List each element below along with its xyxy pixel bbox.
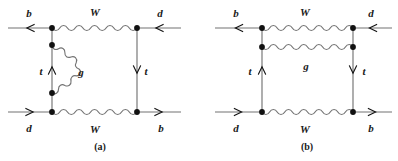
diagram-a-label-t-left: t [39, 66, 42, 77]
diagram-a-vertex-top-left [49, 25, 55, 31]
diagram-a-label-g-gluon: g [78, 67, 84, 78]
diagram-a-label-t-right: t [144, 66, 147, 77]
diagram-a-label-d-bottom-left: d [26, 123, 32, 134]
diagram-a-vertex-bottom-right [134, 109, 140, 115]
diagram-a-w-boson-top [52, 26, 137, 31]
diagram-b-caption: (b) [301, 142, 313, 152]
diagram-b-vertex-bottom-left [259, 109, 265, 115]
diagram-a-gluon-loop [52, 45, 81, 94]
diagram-b-vertex-gluon-right [350, 44, 356, 50]
diagram-a-label-d-top-right: d [157, 8, 163, 19]
diagram-a-label-b-top-left: b [26, 8, 32, 19]
diagram-b-vertex-top-right [350, 25, 356, 31]
diagram-b-label-W-bottom: W [300, 124, 310, 135]
diagram-b-label-d-bottom-left: d [233, 123, 239, 134]
diagram-b-label-b-top-left: b [233, 8, 239, 19]
diagram-b-label-W-top: W [300, 7, 310, 18]
diagram-b-w-boson-bottom [262, 110, 353, 115]
diagram-a-label-b-bottom-right: b [158, 123, 164, 134]
diagram-b-w-boson-top [262, 26, 353, 31]
diagram-a-label-W-top: W [90, 7, 100, 18]
diagram-b-label-d-top-right: d [368, 8, 374, 19]
diagram-b-label-b-bottom-right: b [368, 123, 374, 134]
diagram-a-caption: (a) [94, 142, 106, 152]
diagram-a-vertex-bottom-left [49, 109, 55, 115]
diagram-b-label-g-gluon: g [303, 61, 309, 72]
diagram-a-vertex-gluon-lower [49, 90, 55, 96]
diagram-b-vertex-bottom-right [350, 109, 356, 115]
diagram-a-label-W-bottom: W [90, 124, 100, 135]
diagram-b-gluon-exchange [262, 45, 353, 50]
diagram-b-label-t-right: t [362, 66, 365, 77]
diagram-b-label-t-left: t [248, 66, 251, 77]
diagram-b-vertex-top-left [259, 25, 265, 31]
diagram-b-vertex-gluon-left [259, 44, 265, 50]
diagram-canvas [0, 0, 398, 161]
diagram-a-w-boson-bottom [52, 110, 137, 115]
diagram-a-vertex-top-right [134, 25, 140, 31]
diagram-a-vertex-gluon-upper [49, 42, 55, 48]
feynman-diagram-figure: bWdtgtdWb(a)bWdtgtdWb(b) [0, 0, 398, 161]
